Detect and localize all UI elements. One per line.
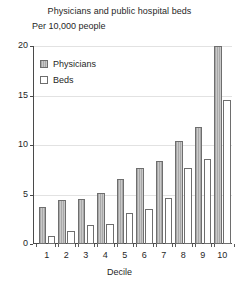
x-tick-mark	[234, 244, 235, 247]
x-tick-mark	[211, 244, 212, 247]
x-tick-mark	[117, 244, 118, 247]
gridline	[34, 46, 232, 47]
y-tick-label: 0	[23, 239, 28, 248]
bar-physicians-decile-6	[136, 168, 144, 244]
x-tick-mark	[78, 244, 79, 247]
x-tick-label-8: 8	[174, 250, 194, 260]
bar-beds-decile-3	[87, 225, 95, 244]
bar-physicians-decile-1	[39, 207, 47, 244]
chart-figure: Physicians and public hospital beds Per …	[0, 0, 239, 286]
x-tick-mark	[136, 244, 137, 247]
x-tick-label-7: 7	[154, 250, 174, 260]
x-tick-label-10: 10	[213, 250, 233, 260]
x-tick-mark	[55, 244, 56, 247]
y-tick-mark	[30, 244, 33, 245]
x-tick-mark	[133, 244, 134, 247]
x-tick-label-1: 1	[37, 250, 57, 260]
x-tick-label-6: 6	[135, 250, 155, 260]
legend-item-physicians: Physicians	[40, 57, 96, 70]
y-tick-label: 20	[18, 41, 28, 50]
bar-beds-decile-5	[126, 213, 134, 244]
x-tick-label-2: 2	[57, 250, 77, 260]
x-tick-mark	[36, 244, 37, 247]
bar-physicians-decile-2	[58, 200, 66, 244]
bar-physicians-decile-7	[156, 161, 164, 244]
y-tick-mark	[30, 96, 33, 97]
x-tick-mark	[75, 244, 76, 247]
bar-beds-decile-7	[165, 198, 173, 244]
x-tick-mark	[195, 244, 196, 247]
bar-physicians-decile-10	[214, 46, 222, 244]
bar-beds-decile-8	[184, 168, 192, 244]
x-tick-label-4: 4	[96, 250, 116, 260]
x-tick-mark	[192, 244, 193, 247]
bar-beds-decile-10	[223, 100, 231, 244]
chart-title: Physicians and public hospital beds	[0, 6, 239, 16]
legend-label-physicians: Physicians	[53, 59, 96, 69]
legend-swatch-physicians-icon	[40, 60, 48, 68]
x-tick-mark	[58, 244, 59, 247]
bar-physicians-decile-9	[195, 127, 203, 244]
gridline	[34, 145, 232, 146]
bar-beds-decile-6	[145, 209, 153, 244]
legend-label-beds: Beds	[53, 75, 74, 85]
bar-beds-decile-1	[48, 236, 56, 244]
bar-physicians-decile-3	[78, 199, 86, 244]
x-tick-mark	[175, 244, 176, 247]
bar-physicians-decile-8	[175, 141, 183, 244]
gridline	[34, 96, 232, 97]
gridline	[34, 195, 232, 196]
y-tick-label: 15	[18, 91, 28, 100]
x-tick-mark	[172, 244, 173, 247]
x-tick-mark	[114, 244, 115, 247]
bar-beds-decile-9	[204, 159, 212, 244]
y-tick-label: 5	[23, 190, 28, 199]
chart-subtitle: Per 10,000 people	[32, 21, 106, 31]
x-tick-label-5: 5	[115, 250, 135, 260]
legend-item-beds: Beds	[40, 73, 96, 86]
x-tick-mark	[214, 244, 215, 247]
y-tick-mark	[30, 46, 33, 47]
bar-physicians-decile-5	[117, 179, 125, 244]
x-tick-label-9: 9	[193, 250, 213, 260]
bar-beds-decile-4	[106, 224, 114, 244]
x-axis-label: Decile	[0, 267, 239, 277]
y-tick-mark	[30, 195, 33, 196]
x-tick-mark	[153, 244, 154, 247]
bar-physicians-decile-4	[97, 193, 105, 244]
x-tick-label-3: 3	[76, 250, 96, 260]
x-tick-mark	[94, 244, 95, 247]
legend-swatch-beds-icon	[40, 76, 48, 84]
x-tick-mark	[156, 244, 157, 247]
bar-beds-decile-2	[67, 231, 75, 244]
y-tick-label: 10	[18, 140, 28, 149]
x-tick-mark	[97, 244, 98, 247]
chart-legend: Physicians Beds	[40, 57, 96, 89]
y-tick-mark	[30, 145, 33, 146]
